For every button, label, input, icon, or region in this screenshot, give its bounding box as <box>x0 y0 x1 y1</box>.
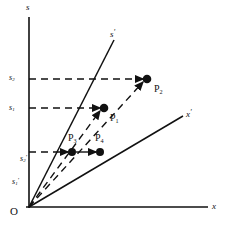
axis-label-x-prime: x' <box>186 110 192 119</box>
point-dot-P2[interactable] <box>143 75 152 84</box>
axis-label-s-prime: s' <box>110 30 115 39</box>
tick-label-s1: s1 <box>9 104 15 112</box>
point-dot-P1[interactable] <box>100 104 109 113</box>
point-label-P3: P3 <box>68 133 77 143</box>
axis-label-s: s <box>26 3 30 12</box>
diagonal-arrow-to-p1 <box>29 111 100 207</box>
axis-label-x: x <box>212 202 216 211</box>
origin-label: O <box>10 206 18 217</box>
point-dot-P3[interactable] <box>68 148 76 156</box>
tick-label-s2: s2 <box>9 74 15 82</box>
diagonal-arrow-to-p2 <box>29 82 143 207</box>
point-label-P4: P4 <box>95 133 104 143</box>
point-label-P2: P2 <box>154 84 163 94</box>
point-label-P1: P1 <box>110 113 119 123</box>
tick-label-s1-prime: s1' <box>12 178 19 186</box>
figure-canvas: s x s' x' O s2 s1 s2' s1' P2 P1 P3 P4 <box>0 0 228 233</box>
point-dot-P4[interactable] <box>96 148 104 156</box>
tick-label-s2-prime: s2' <box>20 155 27 163</box>
